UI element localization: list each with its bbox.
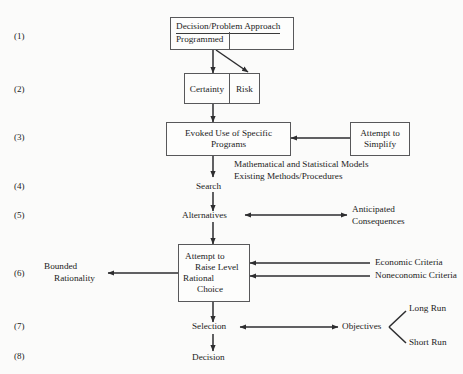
node-evoked-line1: Evoked Use of Specific xyxy=(185,128,272,139)
note-models-line2: Existing Methods/Procedures xyxy=(234,171,342,183)
node-search: Search xyxy=(196,181,221,193)
note-models-line1: Mathematical and Statistical Models xyxy=(234,159,368,171)
node-noneconomic-criteria: Noneconomic Criteria xyxy=(375,270,457,282)
node-decision-problem-approach[interactable]: Decision/Problem Approach Programmed xyxy=(170,17,294,50)
node-attempt-simplify-line2: Simplify xyxy=(364,139,396,150)
node-decision-problem-divider xyxy=(229,32,230,50)
node-evoked-use-programs[interactable]: Evoked Use of Specific Programs xyxy=(166,122,291,156)
row-label-7: (7) xyxy=(14,321,25,331)
node-objectives: Objectives xyxy=(342,321,381,333)
row-label-5: (5) xyxy=(14,210,25,220)
row-label-1: (1) xyxy=(14,31,25,41)
node-rational-choice-line2: Raise Level xyxy=(179,262,239,273)
node-certainty: Certainty xyxy=(185,74,229,103)
node-short-run: Short Run xyxy=(409,337,447,349)
row-label-8: (8) xyxy=(14,351,25,361)
node-anticipated-line2: Consequences xyxy=(352,216,405,228)
connector-layer xyxy=(0,0,463,374)
node-certainty-risk[interactable]: Certainty Risk xyxy=(184,73,260,104)
row-label-4: (4) xyxy=(14,181,25,191)
row-label-6: (6) xyxy=(14,268,25,278)
node-rational-choice-line3: Rational xyxy=(179,273,214,284)
node-long-run: Long Run xyxy=(409,303,446,315)
node-rational-choice-line1: Attempt to xyxy=(179,251,225,262)
node-alternatives: Alternatives xyxy=(182,210,227,222)
row-label-2: (2) xyxy=(14,84,25,94)
node-risk: Risk xyxy=(230,74,259,103)
node-rational-choice[interactable]: Attempt to Raise Level Rational Choice xyxy=(178,244,250,302)
node-decision: Decision xyxy=(192,352,225,364)
node-bounded-line1: Bounded xyxy=(44,261,77,273)
node-attempt-to-simplify[interactable]: Attempt to Simplify xyxy=(350,122,410,156)
flowchart-canvas: (1) (2) (3) (4) (5) (6) (7) (8) Decision… xyxy=(0,0,463,374)
node-anticipated-line1: Anticipated xyxy=(352,204,395,216)
node-economic-criteria: Economic Criteria xyxy=(375,257,443,269)
node-evoked-line2: Programs xyxy=(211,139,246,150)
node-rational-choice-line4: Choice xyxy=(179,284,223,295)
node-attempt-simplify-line1: Attempt to xyxy=(360,128,400,139)
node-selection: Selection xyxy=(192,321,226,333)
row-label-3: (3) xyxy=(14,132,25,142)
node-bounded-line2: Rationality xyxy=(54,273,95,285)
